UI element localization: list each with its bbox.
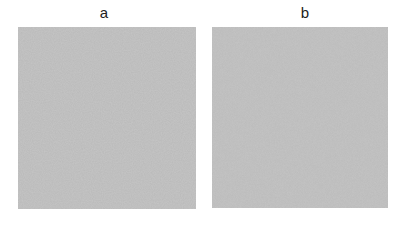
panel-b-label: b — [295, 4, 315, 21]
panel-a-noise-image — [18, 27, 196, 209]
panel-a-label: a — [94, 4, 114, 21]
noise-texture-b — [212, 27, 388, 208]
noise-texture-a — [18, 27, 196, 209]
panel-b-noise-image — [212, 27, 388, 208]
